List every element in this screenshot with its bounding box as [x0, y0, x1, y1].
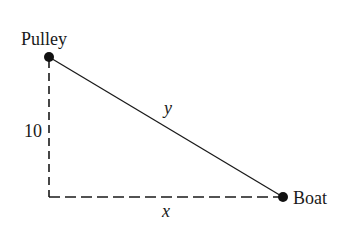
base-label: x — [162, 202, 170, 220]
pulley-point-icon — [44, 52, 54, 62]
rope-line — [49, 57, 283, 197]
height-label: 10 — [24, 122, 42, 140]
hypotenuse-label: y — [164, 99, 172, 117]
pulley-label: Pulley — [21, 30, 67, 48]
boat-point-icon — [278, 192, 288, 202]
boat-label: Boat — [293, 189, 327, 207]
